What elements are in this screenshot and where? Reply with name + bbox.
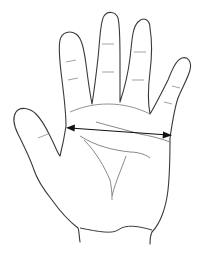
palm-width-arrow xyxy=(66,125,172,139)
finger-base-crease xyxy=(70,104,150,114)
wrist-line xyxy=(80,226,152,232)
hand-illustration xyxy=(0,0,202,258)
hand-outline xyxy=(14,12,191,244)
hand-diagram xyxy=(0,0,202,258)
arrow-head-left-icon xyxy=(66,125,75,132)
arrow-shaft xyxy=(70,128,168,135)
